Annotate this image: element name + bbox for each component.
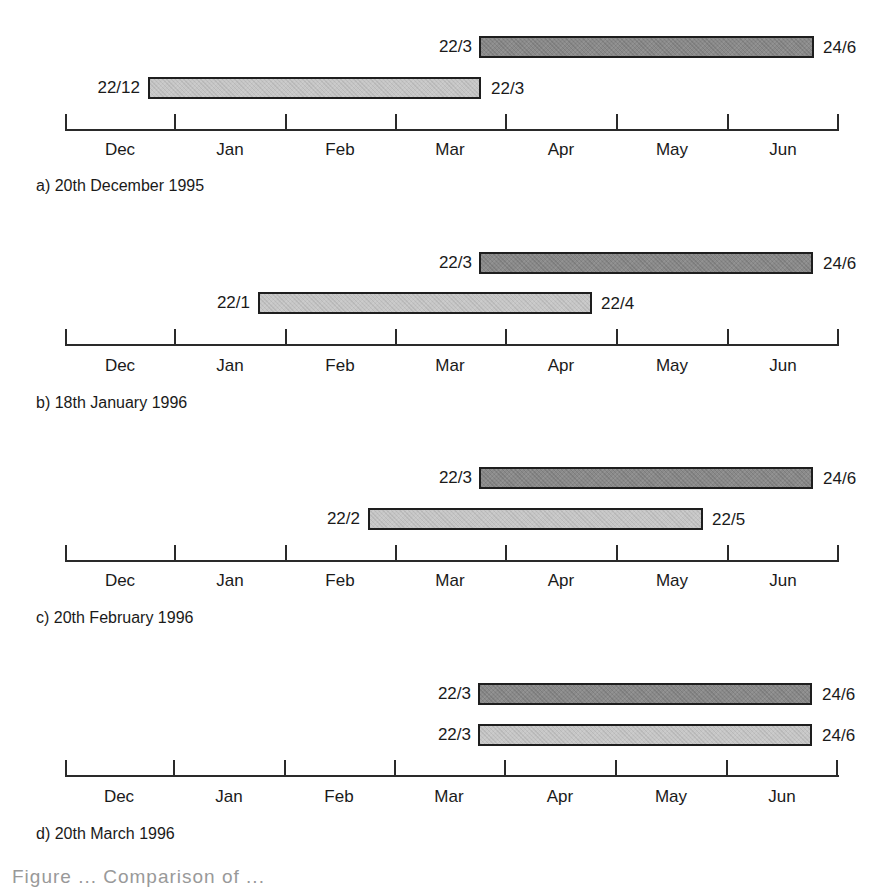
axis-tick	[65, 114, 67, 131]
dark-bar-start-label: 22/3	[401, 683, 471, 705]
axis-tick	[505, 545, 507, 562]
dark-bar	[479, 467, 813, 489]
axis-tick	[727, 114, 729, 131]
axis-tick	[65, 329, 67, 346]
axis-tick	[837, 329, 839, 346]
light-bar-start-label: 22/1	[180, 292, 250, 314]
month-label: Apr	[506, 356, 616, 376]
month-label: Dec	[65, 140, 175, 160]
axis-tick	[173, 760, 175, 777]
month-label: Apr	[506, 571, 616, 591]
axis-tick	[505, 114, 507, 131]
axis-tick	[727, 329, 729, 346]
timeline-axis	[65, 344, 839, 346]
panel-a: 22/3 24/6 22/12 22/3 Dec Jan Feb Mar Apr…	[0, 0, 892, 215]
month-label: Dec	[64, 787, 174, 807]
month-label: Feb	[285, 356, 395, 376]
axis-tick	[726, 760, 728, 777]
light-bar	[478, 724, 812, 746]
axis-tick	[284, 760, 286, 777]
axis-tick	[837, 545, 839, 562]
panel-caption: c) 20th February 1996	[36, 609, 193, 627]
dark-bar	[478, 683, 812, 705]
axis-tick	[616, 114, 618, 131]
axis-tick	[174, 545, 176, 562]
dark-bar-end-label: 24/6	[822, 684, 855, 706]
axis-tick	[615, 760, 617, 777]
month-label: Jun	[728, 356, 838, 376]
axis-tick	[395, 329, 397, 346]
light-bar-start-label: 22/12	[70, 77, 140, 99]
month-label: Apr	[506, 140, 616, 160]
month-label: May	[617, 356, 727, 376]
axis-tick	[505, 329, 507, 346]
month-label: Feb	[285, 140, 395, 160]
axis-tick	[836, 760, 838, 777]
axis-tick	[285, 114, 287, 131]
panel-c: 22/3 24/6 22/2 22/5 Dec Jan Feb Mar Apr …	[0, 432, 892, 647]
axis-tick	[285, 545, 287, 562]
light-bar-start-label: 22/3	[401, 724, 471, 746]
light-bar-end-label: 22/4	[601, 293, 634, 315]
light-bar-start-label: 22/2	[290, 508, 360, 530]
dark-bar-start-label: 22/3	[402, 36, 472, 58]
dark-bar-end-label: 24/6	[823, 253, 856, 275]
dark-bar	[479, 252, 813, 274]
panel-b: 22/3 24/6 22/1 22/4 Dec Jan Feb Mar Apr …	[0, 216, 892, 431]
light-bar-end-label: 22/5	[712, 509, 745, 531]
light-bar-end-label: 22/3	[491, 78, 524, 100]
month-label: Mar	[394, 787, 504, 807]
month-label: Jun	[727, 787, 837, 807]
panel-d: 22/3 24/6 22/3 24/6 Dec Jan Feb Mar Apr …	[0, 648, 892, 863]
figure-caption: Figure ... Comparison of ...	[12, 866, 265, 888]
dark-bar-start-label: 22/3	[402, 467, 472, 489]
dark-bar-end-label: 24/6	[823, 468, 856, 490]
month-label: Dec	[65, 356, 175, 376]
axis-tick	[395, 545, 397, 562]
dark-bar-start-label: 22/3	[402, 252, 472, 274]
axis-tick	[285, 329, 287, 346]
axis-tick	[394, 760, 396, 777]
axis-tick	[616, 329, 618, 346]
month-label: May	[617, 571, 727, 591]
light-bar	[148, 77, 481, 99]
month-label: Jan	[175, 571, 285, 591]
month-label: Dec	[65, 571, 175, 591]
dark-bar	[479, 36, 814, 58]
month-label: Jan	[174, 787, 284, 807]
month-label: Jun	[728, 140, 838, 160]
axis-tick	[837, 114, 839, 131]
panel-caption: b) 18th January 1996	[36, 394, 187, 412]
axis-tick	[65, 545, 67, 562]
axis-tick	[727, 545, 729, 562]
month-label: Mar	[395, 356, 505, 376]
axis-tick	[616, 545, 618, 562]
month-label: May	[617, 140, 727, 160]
panel-caption: a) 20th December 1995	[36, 177, 204, 195]
timeline-axis	[65, 129, 839, 131]
month-label: Jan	[175, 140, 285, 160]
month-label: Feb	[285, 571, 395, 591]
month-label: Apr	[505, 787, 615, 807]
light-bar-end-label: 24/6	[822, 725, 855, 747]
light-bar	[258, 292, 592, 314]
month-label: May	[616, 787, 726, 807]
month-label: Mar	[395, 571, 505, 591]
axis-tick	[395, 114, 397, 131]
axis-tick	[504, 760, 506, 777]
timeline-axis	[65, 560, 839, 562]
month-label: Mar	[395, 140, 505, 160]
panel-caption: d) 20th March 1996	[36, 825, 175, 843]
month-label: Jun	[728, 571, 838, 591]
axis-tick	[174, 329, 176, 346]
timeline-axis	[65, 775, 839, 777]
month-label: Jan	[175, 356, 285, 376]
axis-tick	[174, 114, 176, 131]
dark-bar-end-label: 24/6	[823, 37, 856, 59]
axis-tick	[65, 760, 67, 777]
month-label: Feb	[284, 787, 394, 807]
light-bar	[368, 508, 703, 530]
